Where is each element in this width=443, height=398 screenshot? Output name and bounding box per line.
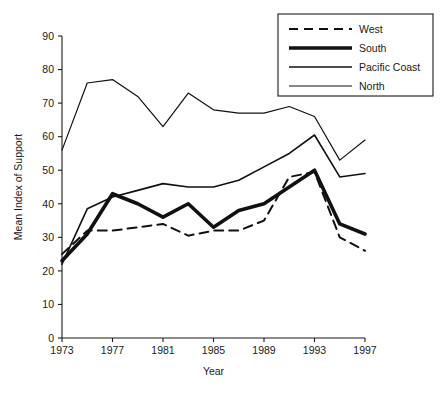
x-axis-tick-label: 1989 <box>252 344 276 356</box>
y-axis-tick-label: 20 <box>42 265 54 277</box>
y-axis-tick-label: 90 <box>42 30 54 42</box>
series-line-pacific-coast <box>62 135 365 264</box>
x-axis-tick-label: 1997 <box>353 344 377 356</box>
legend-box <box>278 14 433 96</box>
x-axis-tick-label: 1985 <box>202 344 226 356</box>
legend-label-north: North <box>359 80 385 92</box>
series-line-south <box>62 170 365 261</box>
chart-canvas: 0102030405060708090197319771981198519891… <box>0 0 443 398</box>
y-axis-tick-label: 80 <box>42 63 54 75</box>
x-axis-title: Year <box>203 365 225 377</box>
x-axis-tick-label: 1977 <box>101 344 125 356</box>
y-axis-tick-label: 50 <box>42 164 54 176</box>
y-axis-tick-label: 30 <box>42 231 54 243</box>
legend-label-south: South <box>359 42 387 54</box>
y-axis-tick-label: 40 <box>42 198 54 210</box>
line-chart: 0102030405060708090197319771981198519891… <box>0 0 443 398</box>
x-axis-tick-label: 1981 <box>151 344 175 356</box>
y-axis-tick-label: 70 <box>42 97 54 109</box>
legend-label-pacific-coast: Pacific Coast <box>359 61 420 73</box>
y-axis-tick-label: 0 <box>48 332 54 344</box>
y-axis-tick-label: 10 <box>42 298 54 310</box>
x-axis-tick-label: 1973 <box>50 344 74 356</box>
x-axis-tick-label: 1993 <box>303 344 327 356</box>
legend-label-west: West <box>359 23 383 35</box>
y-axis-tick-label: 60 <box>42 130 54 142</box>
y-axis-title: Mean Index of Support <box>12 134 24 240</box>
